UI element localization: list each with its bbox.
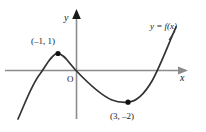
origin-label: O — [67, 75, 74, 84]
local-minimum-point-label: (3, –2) — [110, 112, 134, 121]
y-axis-arrowhead-icon — [72, 9, 81, 19]
local-minimum-point-marker — [125, 100, 130, 105]
x-axis-label: x — [180, 73, 184, 83]
graph-canvas — [0, 0, 206, 132]
function-label-leader-line — [169, 31, 175, 40]
function-equation-label: y = f(x) — [150, 22, 177, 31]
local-maximum-point-label: (–1, 1) — [31, 37, 55, 46]
x-axis — [5, 67, 188, 75]
y-axis-label: y — [64, 13, 68, 23]
y-axis — [72, 9, 81, 119]
local-maximum-point-marker — [55, 51, 60, 56]
function-graph-figure: y x O (–1, 1) (3, –2) y = f(x) — [0, 0, 206, 132]
